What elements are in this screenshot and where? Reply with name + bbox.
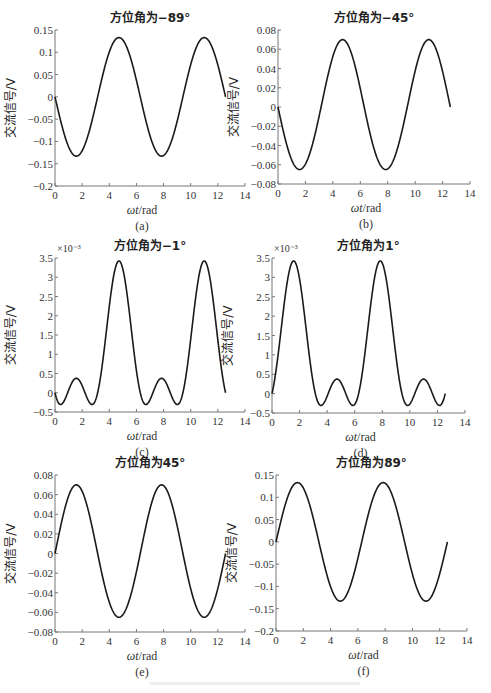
y-tick-label: 1 [265, 349, 271, 361]
y-tick-label: 0.1 [39, 46, 53, 58]
y-tick-label: 0.05 [34, 69, 54, 81]
y-tick-label: 0 [271, 101, 277, 113]
x-tick-label: 2 [79, 415, 85, 427]
y-tick-label: −0.04 [251, 140, 277, 152]
y-tick-label: 0 [48, 387, 54, 399]
x-tick-label: 12 [212, 635, 223, 647]
x-tick-label: 10 [185, 415, 197, 427]
x-tick-label: 8 [382, 634, 388, 646]
x-tick-label: 14 [462, 634, 474, 646]
x-tick-label: 0 [269, 416, 275, 428]
y-tick-label: −0.02 [251, 120, 276, 132]
subfigure-label: (a) [135, 219, 148, 233]
y-tick-label: 0 [48, 91, 54, 103]
y-tick-label: −0.02 [28, 567, 53, 579]
signal-curve [55, 485, 226, 617]
chart-title: 方位角为45° [115, 455, 186, 470]
y-tick-label: −0.2 [254, 625, 274, 637]
x-tick-label: 4 [107, 415, 113, 427]
y-axis-label: 交流信号/V [224, 522, 239, 583]
y-axis-label: 交流信号/V [220, 305, 235, 366]
y-tick-label: 2.5 [256, 291, 270, 303]
y-tick-label: 2 [48, 310, 54, 322]
y-axis-label: 交流信号/V [3, 523, 18, 584]
y-axis-exponent: ×10⁻³ [57, 243, 81, 254]
axes-frame [276, 475, 467, 631]
y-tick-label: 3.5 [39, 252, 53, 264]
x-tick-label: 4 [324, 416, 330, 428]
x-tick-label: 2 [297, 416, 303, 428]
y-tick-label: −0.5 [33, 406, 53, 418]
y-tick-label: 2.5 [39, 291, 53, 303]
signal-curve [55, 38, 226, 157]
figure-canvas: 02468101214−0.2−0.15−0.1−0.0500.050.10.1… [0, 0, 491, 693]
y-tick-label: 0.06 [34, 489, 54, 501]
chart-b: 02468101214−0.08−0.06−0.04−0.0200.020.04… [226, 10, 476, 231]
x-tick-label: 12 [212, 415, 223, 427]
signal-curve [276, 483, 447, 602]
x-tick-label: 12 [432, 416, 443, 428]
chart-title: 方位角为−45° [334, 10, 415, 25]
y-tick-label: −0.06 [251, 159, 277, 171]
y-tick-label: 0.05 [255, 514, 275, 526]
x-tick-label: 6 [134, 189, 140, 201]
x-tick-label: 6 [355, 634, 361, 646]
y-tick-label: 0 [48, 548, 54, 560]
chart-e: 02468101214−0.08−0.06−0.04−0.0200.020.04… [3, 455, 251, 679]
x-tick-label: 12 [212, 189, 223, 201]
x-tick-label: 8 [161, 635, 167, 647]
subfigure-label: (f) [358, 664, 370, 678]
y-tick-label: −0.08 [251, 178, 277, 190]
x-tick-label: 4 [328, 634, 334, 646]
y-axis-label: 交流信号/V [226, 76, 241, 137]
chart-title: 方位角为89° [336, 455, 407, 470]
x-tick-label: 2 [79, 635, 85, 647]
chart-title: 方位角为1° [337, 238, 399, 253]
subfigure-label: (b) [359, 217, 373, 231]
y-tick-label: 0.15 [34, 24, 54, 36]
subfigure-label: (e) [135, 665, 148, 679]
x-tick-label: 2 [79, 189, 85, 201]
y-tick-label: 0.02 [34, 528, 53, 540]
axes-frame [55, 475, 245, 632]
x-tick-label: 14 [240, 189, 252, 201]
x-tick-label: 12 [434, 634, 445, 646]
chart-a: 02468101214−0.2−0.15−0.1−0.0500.050.10.1… [3, 10, 251, 233]
x-tick-label: 14 [240, 635, 252, 647]
y-tick-label: −0.5 [250, 407, 270, 419]
y-tick-label: 3.5 [256, 252, 270, 264]
x-tick-label: 8 [161, 189, 167, 201]
y-tick-label: −0.06 [28, 606, 54, 618]
y-tick-label: 0.15 [255, 469, 275, 481]
signal-curve [272, 261, 445, 406]
x-tick-label: 8 [161, 415, 167, 427]
x-tick-label: 6 [352, 416, 358, 428]
x-tick-label: 10 [410, 187, 422, 199]
x-tick-label: 4 [107, 635, 113, 647]
y-tick-label: 1.5 [39, 329, 53, 341]
x-tick-label: 6 [134, 415, 140, 427]
x-tick-label: 0 [273, 634, 279, 646]
y-tick-label: 0.08 [34, 469, 54, 481]
y-tick-label: 0.06 [257, 43, 277, 55]
y-tick-label: 0.5 [39, 368, 53, 380]
y-axis-label: 交流信号/V [3, 77, 18, 138]
x-tick-label: 2 [303, 187, 309, 199]
x-tick-label: 2 [301, 634, 307, 646]
x-tick-label: 0 [52, 635, 58, 647]
y-tick-label: 3 [48, 271, 54, 283]
y-tick-label: 0 [269, 536, 275, 548]
chart-d: 02468101214−0.500.511.522.533.5×10⁻³方位角为… [220, 238, 471, 460]
x-tick-label: 12 [437, 187, 448, 199]
x-tick-label: 0 [52, 415, 58, 427]
x-tick-label: 6 [134, 635, 140, 647]
y-axis-label: 交流信号/V [3, 304, 18, 365]
y-tick-label: 0.08 [257, 24, 277, 36]
x-tick-label: 10 [185, 635, 197, 647]
y-tick-label: −0.08 [28, 626, 54, 638]
y-tick-label: 0.04 [34, 508, 54, 520]
x-tick-label: 8 [380, 416, 386, 428]
x-axis-label: ωt/rad [345, 430, 375, 444]
x-tick-label: 4 [107, 189, 113, 201]
y-tick-label: 0.5 [256, 368, 270, 380]
